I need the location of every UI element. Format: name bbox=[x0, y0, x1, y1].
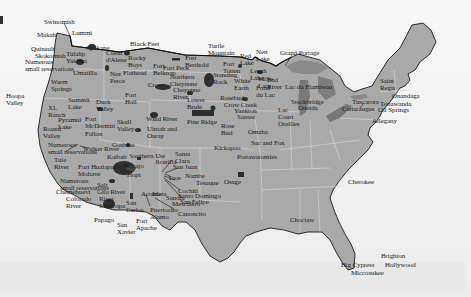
label-black-feet: Black Feet bbox=[130, 41, 159, 48]
label-hoopa-valley: Hoopa Valley bbox=[6, 93, 24, 107]
label-red-lake: Red Lake bbox=[240, 53, 254, 67]
label-river-maricopa: River Maricopa bbox=[99, 196, 125, 210]
label-canoncito: Canoncito bbox=[178, 211, 206, 218]
label-duck-valley: Duck Valley bbox=[96, 99, 113, 113]
label-kickapoo: Kickapoo bbox=[214, 145, 240, 152]
label-round-valley: Round Valley bbox=[43, 126, 61, 140]
label-lac-courte-oreilles: Lac Court Oreilles bbox=[278, 107, 299, 128]
label-bad-river: Bad River bbox=[267, 77, 282, 91]
label-rose-bud-2: Rose Bud bbox=[221, 123, 235, 137]
label-allegany: Allegany bbox=[372, 118, 397, 125]
map-canvas: SwinomishLummiMakahQuinaultSkokomishNume… bbox=[0, 0, 471, 297]
label-summit-lake: Summit Lake bbox=[68, 97, 90, 111]
label-santee: Santee bbox=[237, 114, 255, 121]
label-pottawatomies: Pottawatomies bbox=[237, 154, 277, 161]
label-lower-brule: Lower Brule bbox=[187, 97, 205, 111]
label-pine-ridge: Pine Ridge bbox=[187, 119, 217, 126]
label-choctaw: Choctaw bbox=[290, 217, 314, 224]
label-san-carlos: San Carlos bbox=[126, 200, 144, 214]
label-yakima: Yakima bbox=[66, 58, 87, 65]
label-colorado-river: Colorado River bbox=[66, 196, 91, 210]
label-fort-huachuca-mohave: Fort Hualapai Mohave bbox=[78, 164, 115, 178]
label-skull-valley: Skull Valley bbox=[117, 119, 134, 133]
label-umatilla: Umatilla bbox=[73, 70, 97, 77]
label-fort-berthold: Fort Berthold bbox=[185, 55, 209, 69]
label-omaha: Omaha bbox=[248, 129, 268, 136]
label-tesuque: Tesuque bbox=[196, 180, 219, 187]
label-crow: Crow bbox=[148, 82, 163, 89]
label-oil-springs: Oil Springs bbox=[378, 107, 409, 114]
label-fallon: Fallon bbox=[85, 131, 102, 138]
label-tule-river: Tule River bbox=[54, 157, 69, 171]
label-lac-du-flambeau: Lac du Flambeau bbox=[285, 84, 332, 91]
label-hollywood: Hollywood bbox=[385, 262, 416, 269]
label-wind-river: Wind River bbox=[146, 116, 178, 123]
label-warm-springs: Warm Springs bbox=[51, 79, 72, 93]
label-san-juan: San Juan bbox=[173, 164, 197, 171]
label-coeur-dalene: Coeur d'Alene bbox=[106, 50, 127, 64]
label-papago: Papago bbox=[94, 217, 114, 224]
label-nez-perce: Nez Perce bbox=[110, 71, 125, 85]
label-isleta: Isleta bbox=[152, 191, 167, 198]
label-san-xavier: San Xavier bbox=[117, 222, 135, 236]
label-fort-hall: Fort Hall bbox=[125, 92, 137, 106]
label-kaibab: Kaibab bbox=[107, 154, 127, 161]
label-swinomish: Swinomish bbox=[44, 19, 75, 26]
label-white-earth: White Earth bbox=[234, 78, 251, 92]
label-pyramid-lake: Pyramid Lake bbox=[58, 117, 81, 131]
label-oneida: Oneida bbox=[298, 105, 318, 112]
label-cattaraugus: Cattaraugus bbox=[342, 106, 374, 113]
label-sac-and-fox: Sac and Fox bbox=[251, 140, 285, 147]
label-cherokee: Cherokee bbox=[348, 179, 374, 186]
label-lummi: Lummi bbox=[72, 30, 92, 37]
label-nett-lake: Nett Lake bbox=[256, 49, 270, 63]
label-rocky-boys: Rocky Boys bbox=[128, 55, 146, 69]
label-makah: Makah bbox=[37, 32, 56, 39]
label-brighton: Brighton bbox=[381, 253, 405, 260]
label-turtle-mountain: Turtle Mountain bbox=[208, 43, 234, 57]
label-fort-apache: Fort Apache bbox=[136, 218, 157, 232]
label-taos: Taos bbox=[168, 175, 181, 182]
label-onandaga: Onandaga bbox=[392, 93, 420, 100]
label-navajo: Navajo bbox=[124, 163, 144, 170]
label-big-cypress: Big Cypress bbox=[341, 262, 374, 269]
label-walker-river: Walker River bbox=[83, 146, 119, 153]
label-flathead: Flathead bbox=[123, 70, 146, 77]
label-fort-mcdermitt: Fort McDermitt bbox=[85, 116, 115, 130]
label-uintah-and-ouray: Uintah and Ouray bbox=[147, 126, 177, 140]
label-grand-portage: Grand Portage bbox=[280, 50, 319, 57]
label-hopi: Hopi bbox=[127, 172, 141, 179]
label-osage: Osage bbox=[224, 179, 241, 186]
label-saint-regis: Saint Regis bbox=[380, 78, 395, 92]
label-miccosukee: Miccosukee bbox=[351, 270, 384, 277]
